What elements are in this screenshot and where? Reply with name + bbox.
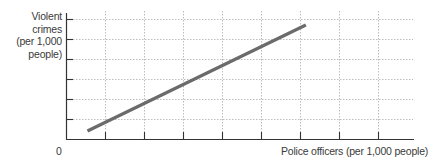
data-series — [87, 25, 305, 131]
y-axis-label: Violent crimes (per 1,000 people) — [0, 10, 62, 60]
axes — [66, 13, 414, 140]
y-axis-label-line: (per 1,000 — [0, 35, 62, 48]
chart-canvas — [0, 0, 434, 164]
origin-label: 0 — [56, 145, 62, 157]
y-axis-label-line: crimes — [0, 23, 62, 36]
y-axis-label-line: Violent — [0, 10, 62, 23]
y-axis-label-line: people) — [0, 48, 62, 61]
x-axis-label: Police officers (per 1,000 people) — [281, 145, 428, 157]
trend-line — [87, 25, 305, 131]
